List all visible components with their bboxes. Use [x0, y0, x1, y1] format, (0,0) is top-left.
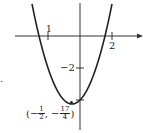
x-tick-label-left: 1 — [46, 25, 52, 34]
x-axis-arrow-icon — [137, 34, 143, 39]
x-tick-label-right: 2 — [109, 41, 115, 51]
vertex-point — [70, 101, 73, 104]
y-tick-label: −2 — [60, 63, 75, 73]
vertex-close-paren: ) — [70, 109, 74, 119]
vertex-x-denominator: 2 — [39, 114, 43, 121]
parabola-curve — [32, 4, 112, 104]
side-mark: . — [0, 74, 3, 84]
vertex-comma: , − — [45, 109, 60, 119]
parabola-graph: 1 2 −2 . (− 1 2 , − 17 4 ) — [0, 0, 143, 133]
vertex-y-denominator: 4 — [63, 114, 67, 121]
vertex-y-fraction: 17 4 — [60, 106, 71, 121]
vertex-open-paren: (− — [26, 109, 38, 119]
vertex-label: (− 1 2 , − 17 4 ) — [26, 106, 74, 121]
